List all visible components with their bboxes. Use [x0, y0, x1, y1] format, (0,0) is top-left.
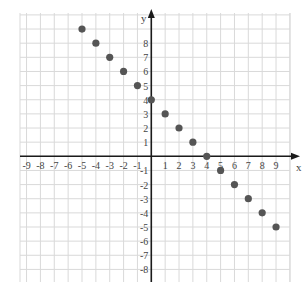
data-point: [203, 153, 210, 160]
data-point: [162, 110, 169, 117]
x-tick-label: 6: [232, 160, 237, 171]
data-point: [92, 40, 99, 47]
x-tick-label: -4: [92, 160, 100, 171]
y-tick-label: 2: [143, 123, 148, 134]
x-tick-label: -6: [64, 160, 72, 171]
x-tick-label: -8: [36, 160, 44, 171]
scatter-plot: -9-8-7-6-5-4-3-2-1123456789-8-7-6-5-4-3-…: [0, 0, 308, 296]
y-tick-label: -8: [140, 264, 148, 275]
x-tick-label: 1: [163, 160, 168, 171]
x-axis-arrow-icon: [291, 153, 300, 160]
y-axis-arrow-icon: [148, 9, 155, 18]
y-tick-label: 7: [143, 52, 148, 63]
data-point: [259, 209, 266, 216]
x-tick-label: 7: [246, 160, 251, 171]
data-point: [78, 25, 85, 32]
x-tick-label: -5: [78, 160, 86, 171]
grid-lines: [20, 13, 290, 282]
data-point: [272, 223, 279, 230]
y-tick-label: 1: [143, 137, 148, 148]
data-point: [175, 124, 182, 131]
y-tick-label: 6: [143, 66, 148, 77]
y-tick-label: -3: [140, 194, 148, 205]
data-point: [120, 68, 127, 75]
x-tick-label: 4: [204, 160, 209, 171]
x-tick-label: 8: [260, 160, 265, 171]
y-tick-label: -4: [140, 208, 148, 219]
y-tick-label: 4: [143, 95, 148, 106]
y-tick-label: -2: [140, 180, 148, 191]
data-point: [106, 54, 113, 61]
x-tick-label: -3: [106, 160, 114, 171]
x-tick-label: 3: [190, 160, 195, 171]
data-point: [231, 181, 238, 188]
y-tick-label: -5: [140, 222, 148, 233]
x-axis-label: x: [296, 161, 302, 173]
data-point: [245, 195, 252, 202]
data-point: [189, 139, 196, 146]
data-point: [217, 167, 224, 174]
coordinate-plane: -9-8-7-6-5-4-3-2-1123456789-8-7-6-5-4-3-…: [0, 0, 308, 296]
y-tick-label: 8: [143, 38, 148, 49]
data-point: [148, 96, 155, 103]
x-tick-label: -2: [119, 160, 127, 171]
x-tick-label: -9: [22, 160, 30, 171]
x-tick-label: 9: [274, 160, 279, 171]
y-tick-label: -6: [140, 236, 148, 247]
y-tick-label: -1: [140, 165, 148, 176]
y-tick-label: 3: [143, 109, 148, 120]
y-tick-label: -7: [140, 250, 148, 261]
x-tick-label: -7: [50, 160, 58, 171]
x-tick-label: 2: [177, 160, 182, 171]
y-tick-label: 5: [143, 81, 148, 92]
data-point: [134, 82, 141, 89]
y-axis-label: y: [141, 12, 147, 24]
